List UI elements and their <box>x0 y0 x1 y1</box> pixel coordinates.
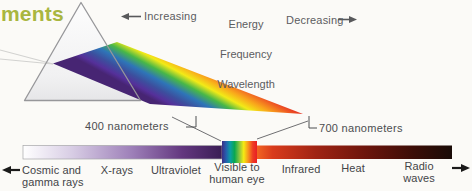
incident-light-rays <box>0 50 53 64</box>
band-label-ultraviolet: Ultraviolet <box>151 165 201 177</box>
visible-light-segment <box>222 141 257 163</box>
callout-400nm-label: 400 nanometers <box>85 120 169 132</box>
decreasing-label: Decreasing <box>286 14 344 26</box>
increasing-label: Increasing <box>144 10 197 22</box>
quantity-energy: Energy <box>217 18 275 30</box>
gamma-direction-arrow-icon <box>2 166 20 174</box>
quantities-label: Energy Frequency Wavelength <box>217 0 275 108</box>
band-label-cosmic-gamma: Cosmic and gamma rays <box>22 165 84 188</box>
callout-line-700nm <box>257 116 317 139</box>
band-label-infrared: Infrared <box>282 164 321 176</box>
spectrum-bar-right <box>257 146 452 160</box>
band-label-radio-waves: Radio waves <box>393 161 446 184</box>
quantity-wavelength: Wavelength <box>217 78 275 90</box>
callout-700nm-label: 700 nanometers <box>319 122 403 134</box>
quantity-frequency: Frequency <box>217 48 275 60</box>
page-heading-fragment: ments <box>1 2 64 26</box>
increasing-arrow-icon <box>121 13 141 20</box>
em-spectrum-diagram: ments Increasing Energy Frequency Wavele… <box>0 0 472 191</box>
spectrum-bar-left <box>23 146 222 160</box>
radio-direction-arrow-icon <box>452 164 470 172</box>
band-label-visible: Visible to human eye <box>209 162 264 185</box>
band-label-heat: Heat <box>341 163 365 175</box>
band-label-x-rays: X-rays <box>101 165 133 177</box>
callout-line-400nm <box>172 116 221 141</box>
